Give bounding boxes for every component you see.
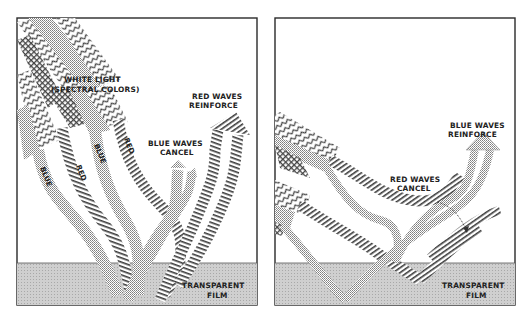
thin-film-interference-diagram: WHITE LIGHT (SPECTRAL COLORS) RED WAVES … [0, 0, 532, 322]
left-panel: WHITE LIGHT (SPECTRAL COLORS) RED WAVES … [17, 18, 257, 305]
left-red-waves-label: RED WAVES [192, 92, 242, 101]
right-red-waves-label: RED WAVES [390, 175, 440, 184]
right-transparent-label: TRANSPARENT [442, 281, 505, 290]
left-reinforce-label: REINFORCE [189, 101, 238, 110]
right-blue-waves-label: BLUE WAVES [450, 121, 505, 130]
right-reinforce-label: REINFORCE [448, 130, 497, 139]
left-spectral-colors-label: (SPECTRAL COLORS) [51, 85, 140, 94]
left-transparent-label: TRANSPARENT [182, 281, 245, 290]
left-film-label: FILM [207, 291, 228, 300]
right-panel: BLUE WAVES REINFORCE RED WAVES CANCEL TR… [275, 18, 515, 305]
left-white-light-label: WHITE LIGHT [64, 75, 121, 84]
left-cancel-label: CANCEL [160, 148, 194, 157]
right-film-label: FILM [466, 291, 487, 300]
left-blue-waves-label: BLUE WAVES [148, 139, 203, 148]
right-cancel-label: CANCEL [397, 184, 431, 193]
